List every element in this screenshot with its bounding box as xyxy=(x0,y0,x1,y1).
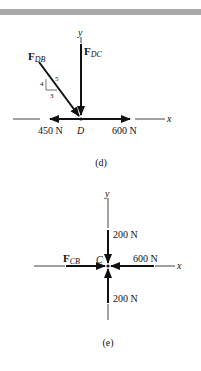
x-axis-label: x xyxy=(166,113,172,124)
figure-d: x y FDC FDB 4 3 5 450 N 600 N D (d) xyxy=(13,27,172,169)
point-c-label: C xyxy=(96,254,103,265)
free-body-diagrams: x y FDC FDB 4 3 5 450 N 600 N D (d) x y xyxy=(0,0,201,371)
force-600-label: 600 N xyxy=(133,253,158,264)
force-dc-label: FDC xyxy=(84,45,103,59)
caption-e: (e) xyxy=(102,337,113,349)
point-c xyxy=(106,264,109,267)
force-db-label: FDB xyxy=(28,50,46,64)
force-cb-label: FCB xyxy=(63,252,80,266)
figure-e: x y 200 N 200 N FCB 600 N C (e) xyxy=(34,188,182,349)
force-450-label: 450 N xyxy=(38,125,63,136)
force-top-label: 200 N xyxy=(113,229,138,240)
slope-run: 3 xyxy=(50,92,54,100)
force-db-arrow xyxy=(39,62,79,116)
slope-rise: 4 xyxy=(40,80,44,88)
slope-hyp: 5 xyxy=(55,75,59,83)
force-bottom-label: 200 N xyxy=(113,293,138,304)
x-axis-label: x xyxy=(176,260,182,271)
point-d xyxy=(79,117,82,120)
point-d-label: D xyxy=(76,125,85,136)
y-axis-label: y xyxy=(77,27,83,38)
force-600-label: 600 N xyxy=(112,125,137,136)
caption-d: (d) xyxy=(95,157,107,169)
y-axis-label: y xyxy=(104,188,110,199)
